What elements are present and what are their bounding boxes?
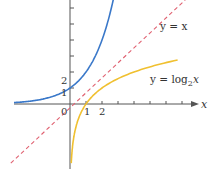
x-tick-label-2: 2 <box>99 106 105 117</box>
graph-figure: x 0 1 2 1 2 y = x y = log2x <box>0 0 209 169</box>
y-tick-label-1: 1 <box>61 87 67 98</box>
origin-label: 0 <box>61 106 67 117</box>
x-axis-arrow-icon <box>191 101 199 107</box>
identity-line-label: y = x <box>159 20 187 32</box>
x-axis-label: x <box>201 98 208 111</box>
log-label-tail: x <box>193 73 199 85</box>
log-label-main: y = log <box>149 73 188 85</box>
y-ticks <box>70 8 74 88</box>
log-curve-label: y = log2x <box>149 73 199 88</box>
y-tick-label-2: 2 <box>61 75 67 86</box>
x-tick-label-1: 1 <box>84 106 90 117</box>
